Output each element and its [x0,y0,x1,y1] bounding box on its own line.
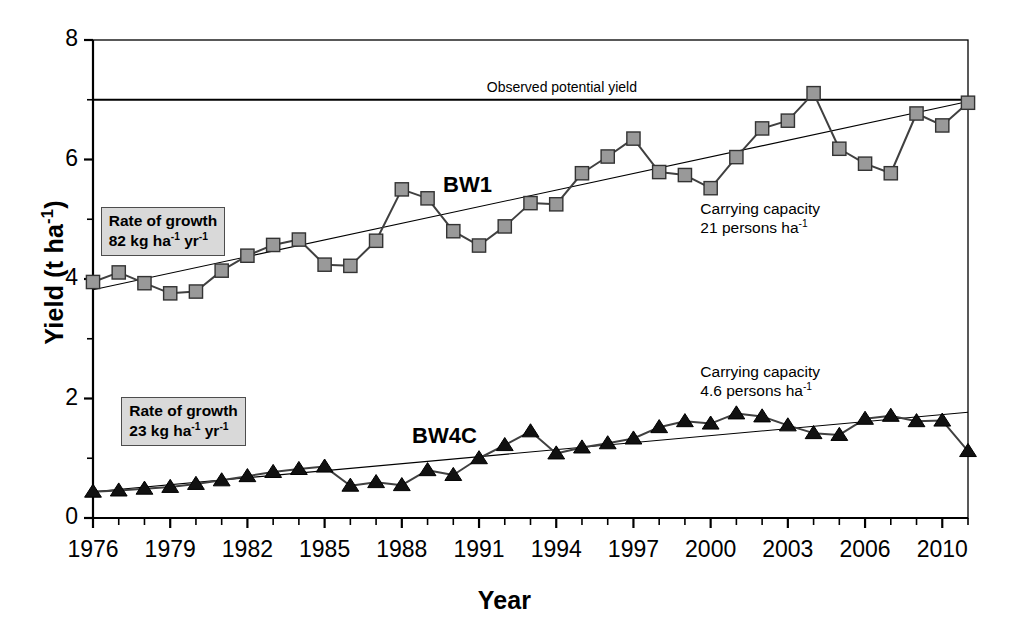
rate-value-bw4c: 23 [129,422,146,439]
x-tick-label: 1982 [207,536,287,563]
carrying-capacity-bw1-line1: Carrying capacity [700,199,820,218]
x-tick-label: 2000 [671,536,751,563]
x-tick-label: 2010 [902,536,982,563]
BW1-marker [550,198,563,211]
rate-exp-b-bw1: -1 [199,231,208,242]
carrying-capacity-bw1-line2: 21 persons ha-1 [700,218,820,237]
x-tick-label: 1979 [130,536,210,563]
BW1-marker [781,114,794,127]
x-tick-label: 1976 [53,536,133,563]
BW1-marker [164,287,177,300]
BW1-marker [447,225,460,238]
x-tick-label: 2006 [825,536,905,563]
carrying-capacity-bw4c-exp: -1 [803,381,812,392]
x-axis-title: Year [0,586,1009,615]
carrying-capacity-annotation-bw4c: Carrying capacity 4.6 persons ha-1 [700,362,820,400]
BW1-marker [575,167,588,180]
bw1-series-label: BW1 [443,172,492,198]
x-tick-label: 1988 [362,536,442,563]
rate-value-bw1: 82 [109,232,126,249]
BW1-marker [858,157,871,170]
BW1-marker [833,142,846,155]
carrying-capacity-annotation-bw1: Carrying capacity 21 persons ha-1 [700,199,820,237]
BW1-marker [86,275,99,288]
rate-of-growth-bw4c-line2: 23 kg ha-1 yr-1 [129,421,238,441]
rate-of-growth-bw1-line1: Rate of growth [109,211,218,231]
BW1-marker [807,87,820,100]
chart-figure: Yield (t ha-1) Year 02468 19761979198219… [0,0,1009,640]
rate-exp-a-bw1: -1 [171,231,180,242]
BW1-marker [292,233,305,246]
BW1-marker [678,168,691,181]
rate-unit-b-bw1: yr [184,232,199,249]
carrying-capacity-bw1-value: 21 [700,219,717,236]
bw4c-series-label: BW4C [412,423,477,449]
y-axis-title-exponent: -1 [38,209,56,224]
BW1-marker [421,192,434,205]
rate-unit-a-bw4c: kg ha [151,422,191,439]
y-tick-label: 0 [38,503,78,530]
BW1-marker [318,258,331,271]
x-tick-label: 1997 [593,536,673,563]
x-tick-label: 1985 [285,536,365,563]
BW1-marker [267,238,280,251]
rate-exp-b-bw4c: -1 [219,421,228,432]
BW4C-marker [368,475,385,488]
y-tick-label: 4 [38,264,78,291]
BW1-marker [241,249,254,262]
BW1-marker [756,122,769,135]
axes-layer [84,40,968,528]
BW1-marker [189,285,202,298]
observed-potential-yield-label: Observed potential yield [487,79,637,95]
BW4C-marker [677,414,694,427]
BW4C-marker [419,463,436,476]
rate-of-growth-box-bw1: Rate of growth 82 kg ha-1 yr-1 [101,207,226,256]
BW1-marker [395,183,408,196]
rate-unit-a-bw1: kg ha [130,232,170,249]
carrying-capacity-bw1-unit: persons ha [722,219,799,236]
BW1-marker [653,165,666,178]
BW4C-marker [522,424,539,437]
y-tick-label: 2 [38,384,78,411]
BW4C-marker [316,459,333,472]
BW1-marker [138,277,151,290]
BW1-marker [524,197,537,210]
BW1-marker [344,259,357,272]
carrying-capacity-bw4c-line2: 4.6 persons ha-1 [700,381,820,400]
y-axis-title-tail: ) [40,200,68,209]
x-tick-label: 1991 [439,536,519,563]
BW1-marker [627,132,640,145]
BW1-marker [704,182,717,195]
BW1-marker [910,107,923,120]
carrying-capacity-bw4c-unit: persons ha [726,382,803,399]
rate-of-growth-bw4c-line1: Rate of growth [129,401,238,421]
BW1-marker [936,119,949,132]
rate-unit-b-bw4c: yr [205,422,220,439]
BW4C-marker [625,431,642,444]
y-tick-label: 8 [38,25,78,52]
carrying-capacity-bw4c-value: 4.6 [700,382,722,399]
BW4C-marker [496,438,513,451]
BW1-marker [961,96,974,109]
BW1-line [93,93,968,293]
BW4C-marker [728,406,745,419]
BW4C-marker [882,408,899,421]
x-tick-label: 2003 [748,536,828,563]
BW1-marker [601,150,614,163]
carrying-capacity-bw4c-line1: Carrying capacity [700,362,820,381]
BW1-marker [112,266,125,279]
carrying-capacity-bw1-exp: -1 [799,218,808,229]
rate-of-growth-bw1-line2: 82 kg ha-1 yr-1 [109,231,218,251]
BW1-marker [215,264,228,277]
BW1-marker [498,220,511,233]
BW1-marker [884,167,897,180]
BW1-marker [369,234,382,247]
y-tick-label: 6 [38,145,78,172]
x-tick-label: 1994 [516,536,596,563]
BW1-marker [730,151,743,164]
rate-exp-a-bw4c: -1 [191,421,200,432]
BW1-marker [472,239,485,252]
rate-of-growth-box-bw4c: Rate of growth 23 kg ha-1 yr-1 [121,397,246,446]
